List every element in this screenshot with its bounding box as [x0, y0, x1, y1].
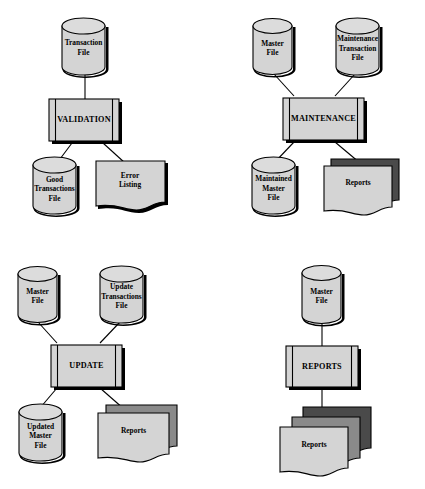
cylinder-label-line3: File [35, 441, 48, 450]
cylinder-master-file: Master File [18, 267, 61, 326]
maintenance-flowchart-canvas: Master File Maintenance Transaction File… [212, 0, 425, 245]
cylinder-label-line2: File [32, 296, 45, 305]
cylinder-label-line2: File [78, 48, 91, 57]
cylinder-label-line2: Transactions [101, 292, 142, 301]
process-box-reports: REPORTS [286, 346, 361, 390]
multi-document-layer-front [98, 413, 169, 462]
cylinder-label-line2: Master [262, 184, 285, 193]
cylinder-maintenance-transaction-file: Maintenance Transaction File [336, 18, 383, 78]
cylinder-label-line2: Transaction [339, 44, 377, 53]
validation-flowchart-canvas: Transaction File VALIDATION Good Transac… [0, 0, 212, 245]
cylinder-label-line3: File [49, 194, 62, 203]
validation-flowchart: Transaction File VALIDATION Good Transac… [0, 0, 212, 245]
document-label-line2: Listing [119, 180, 141, 189]
cylinder-updated-master-file: Updated Master File [19, 404, 66, 464]
cylinder-label-line1: Transaction [65, 38, 103, 47]
reports-flowchart-canvas: Master File REPORTS Reports [212, 245, 425, 489]
process-box-update: UPDATE [51, 345, 125, 390]
cylinder-update-transactions-file: Update Transactions File [100, 266, 147, 326]
cylinder-maintained-master-file: Maintained Master File [252, 157, 299, 217]
process-label: REPORTS [302, 362, 342, 371]
process-label: VALIDATION [57, 115, 111, 124]
process-label: MAINTENANCE [291, 114, 356, 123]
cylinder-master-file: Master File [302, 266, 345, 327]
update-flowchart: Master File Update Transactions File UPD… [0, 245, 212, 489]
connector-validation-to-error-listing [103, 143, 125, 163]
maintenance-flowchart: Master File Maintenance Transaction File… [212, 0, 425, 245]
document-label-line1: Error [121, 171, 140, 180]
process-box-maintenance: MAINTENANCE [283, 98, 367, 143]
multi-document-reports: Reports [324, 159, 399, 215]
cylinder-label-line2: Transactions [34, 184, 75, 193]
process-label: UPDATE [69, 361, 104, 370]
cylinder-label-line3: File [116, 301, 129, 310]
cylinder-label-line1: Master [26, 287, 49, 296]
multi-document-layer-front [324, 166, 392, 215]
cylinder-label-line1: Update [110, 282, 134, 291]
multi-document-label: Reports [345, 178, 370, 187]
cylinder-master-file: Master File [253, 19, 296, 78]
cylinder-label-line2: Master [29, 431, 52, 440]
cylinder-label-line3: File [268, 193, 281, 202]
cylinder-good-transactions-file: Good Transactions File [33, 157, 80, 217]
cylinder-label-line2: File [267, 48, 280, 57]
cylinder-label-line1: Master [261, 39, 284, 48]
update-flowchart-canvas: Master File Update Transactions File UPD… [0, 245, 212, 489]
cylinder-label-line3: File [352, 53, 365, 62]
multi-document-reports: Reports [280, 407, 371, 476]
cylinder-label-line1: Master [310, 287, 333, 296]
flowchart-diagram: Transaction File VALIDATION Good Transac… [0, 0, 425, 489]
multi-document-label: Reports [301, 440, 326, 449]
cylinder-transaction-file: Transaction File [62, 18, 109, 78]
process-box-validation: VALIDATION [49, 99, 122, 144]
multi-document-label: Reports [121, 426, 146, 435]
cylinder-label-line1: Good [46, 175, 64, 184]
cylinder-label-line1: Updated [27, 422, 55, 431]
cylinder-label-line1: Maintenance [337, 34, 379, 43]
reports-flowchart: Master File REPORTS Reports [212, 245, 425, 489]
multi-document-reports: Reports [98, 405, 177, 462]
multi-document-layer-front [280, 427, 348, 476]
cylinder-label-line1: Maintained [255, 174, 292, 183]
document-error-listing: Error Listing [96, 161, 168, 213]
cylinder-label-line2: File [316, 296, 329, 305]
